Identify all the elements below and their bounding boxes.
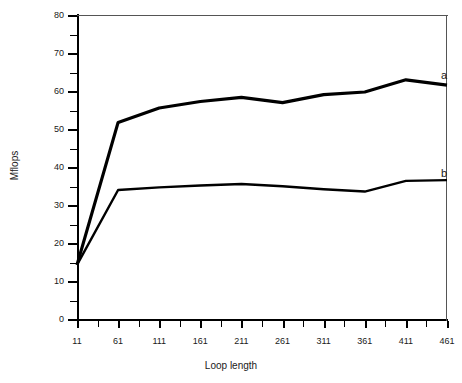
- y-tick-minor: [70, 149, 77, 150]
- y-tick-label: 10: [36, 277, 64, 286]
- x-tick-major: [159, 321, 161, 328]
- x-tick-label: 261: [263, 336, 303, 346]
- x-tick-label: 111: [139, 336, 179, 346]
- y-tick-major: [68, 15, 77, 17]
- x-tick-label: 311: [304, 336, 344, 346]
- x-tick-major: [365, 321, 367, 328]
- x-tick-label: 61: [98, 336, 138, 346]
- series-line-b: [77, 180, 447, 265]
- x-tick-major: [324, 321, 326, 328]
- x-tick-major: [406, 321, 408, 328]
- y-tick-label: 60: [36, 87, 64, 96]
- y-tick-label: 20: [36, 239, 64, 248]
- y-tick-minor: [70, 263, 77, 264]
- series-plot-layer: [0, 0, 462, 383]
- y-tick-minor: [70, 301, 77, 302]
- series-label-b: b: [441, 168, 447, 179]
- y-tick-major: [68, 53, 77, 55]
- x-tick-major: [241, 321, 243, 328]
- x-tick-major: [118, 321, 120, 328]
- y-axis-line: [77, 14, 79, 322]
- y-tick-major: [68, 243, 77, 245]
- x-tick-label: 411: [386, 336, 426, 346]
- x-tick-minor: [385, 321, 386, 327]
- x-tick-minor: [221, 321, 222, 327]
- y-tick-major: [68, 167, 77, 169]
- x-tick-minor: [139, 321, 140, 327]
- chart-container: 01020304050607080 1161111161211261311361…: [0, 0, 462, 383]
- y-tick-label: 0: [36, 315, 64, 324]
- series-label-a: a: [441, 70, 447, 81]
- x-tick-minor: [426, 321, 427, 327]
- y-tick-major: [68, 129, 77, 131]
- x-tick-major: [77, 321, 79, 328]
- series-line-a: [77, 80, 447, 265]
- y-tick-minor: [70, 111, 77, 112]
- y-tick-label: 80: [36, 11, 64, 20]
- y-tick-minor: [70, 35, 77, 36]
- y-tick-label: 30: [36, 201, 64, 210]
- y-tick-minor: [70, 187, 77, 188]
- y-tick-major: [68, 205, 77, 207]
- y-tick-major: [68, 319, 77, 321]
- y-tick-minor: [70, 225, 77, 226]
- x-axis-title: Loop length: [0, 360, 462, 371]
- x-tick-minor: [262, 321, 263, 327]
- y-tick-label: 40: [36, 163, 64, 172]
- y-axis-title: Mflops: [9, 136, 20, 196]
- y-tick-major: [68, 281, 77, 283]
- x-tick-label: 361: [345, 336, 385, 346]
- x-tick-label: 461: [427, 336, 462, 346]
- x-tick-minor: [344, 321, 345, 327]
- x-tick-minor: [98, 321, 99, 327]
- x-tick-label: 11: [57, 336, 97, 346]
- x-tick-major: [200, 321, 202, 328]
- y-tick-minor: [70, 73, 77, 74]
- y-tick-label: 70: [36, 49, 64, 58]
- x-tick-label: 211: [221, 336, 261, 346]
- x-tick-major: [447, 321, 449, 328]
- x-tick-label: 161: [180, 336, 220, 346]
- plot-top-border: [77, 15, 448, 16]
- y-tick-label: 50: [36, 125, 64, 134]
- x-tick-major: [283, 321, 285, 328]
- x-tick-minor: [180, 321, 181, 327]
- y-tick-major: [68, 91, 77, 93]
- x-tick-minor: [303, 321, 304, 327]
